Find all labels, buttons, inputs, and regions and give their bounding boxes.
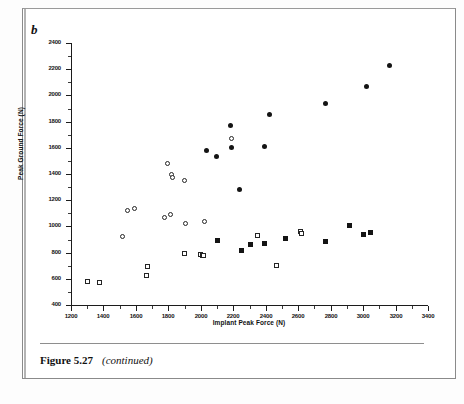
data-point-open-circle xyxy=(229,136,234,141)
data-point-open-square xyxy=(144,273,149,278)
y-minor-tick-mark xyxy=(68,135,71,136)
x-minor-tick-mark xyxy=(87,306,88,309)
y-tick-mark xyxy=(66,174,71,175)
data-point-open-circle xyxy=(183,221,188,226)
x-tick-mark xyxy=(201,306,202,311)
data-point-filled-square xyxy=(361,232,366,237)
y-tick-label: 600 xyxy=(35,275,61,281)
x-minor-tick-mark xyxy=(250,306,251,309)
data-point-open-circle xyxy=(162,215,167,220)
x-tick-mark xyxy=(71,306,72,311)
x-minor-tick-mark xyxy=(217,306,218,309)
data-point-filled-circle xyxy=(237,187,242,192)
y-minor-tick-mark xyxy=(68,213,71,214)
x-axis-label: Implant Peak Force (N) xyxy=(149,319,349,326)
x-minor-tick-mark xyxy=(185,306,186,309)
data-point-open-circle xyxy=(182,178,187,183)
x-minor-tick-mark xyxy=(314,306,315,309)
y-minor-tick-mark xyxy=(68,109,71,110)
x-tick-label: 1600 xyxy=(121,313,151,319)
y-tick-label: 1400 xyxy=(35,170,61,176)
data-point-open-circle xyxy=(170,175,175,180)
x-minor-tick-mark xyxy=(120,306,121,309)
y-tick-label: 2200 xyxy=(35,65,61,71)
x-tick-mark xyxy=(266,306,267,311)
y-tick-mark xyxy=(66,43,71,44)
caption-divider xyxy=(40,343,424,344)
data-point-open-circle xyxy=(202,219,207,224)
data-point-filled-circle xyxy=(323,101,328,106)
data-point-filled-circle xyxy=(204,148,209,153)
data-point-filled-circle xyxy=(267,112,272,117)
y-tick-mark xyxy=(66,279,71,280)
y-tick-label: 1800 xyxy=(35,118,61,124)
x-tick-label: 1400 xyxy=(88,313,118,319)
data-point-open-square xyxy=(201,253,206,258)
data-point-filled-circle xyxy=(387,63,392,68)
y-minor-tick-mark xyxy=(68,82,71,83)
x-minor-tick-mark xyxy=(282,306,283,309)
data-point-filled-square xyxy=(215,238,220,243)
data-point-open-square xyxy=(299,231,304,236)
data-point-filled-circle xyxy=(262,144,267,149)
x-tick-mark xyxy=(428,306,429,311)
x-tick-mark xyxy=(233,306,234,311)
x-tick-mark xyxy=(136,306,137,311)
y-minor-tick-mark xyxy=(68,240,71,241)
y-tick-mark xyxy=(66,148,71,149)
data-point-open-circle xyxy=(125,208,130,213)
y-tick-mark xyxy=(66,122,71,123)
data-point-filled-square xyxy=(262,241,267,246)
x-minor-tick-mark xyxy=(152,306,153,309)
x-tick-mark xyxy=(331,306,332,311)
y-axis-line xyxy=(71,43,72,306)
figure-caption: Figure 5.27(continued) xyxy=(40,354,153,366)
data-point-open-square xyxy=(145,264,150,269)
y-minor-tick-mark xyxy=(68,292,71,293)
x-tick-mark xyxy=(298,306,299,311)
y-tick-label: 2000 xyxy=(35,91,61,97)
data-point-open-square xyxy=(85,279,90,284)
y-minor-tick-mark xyxy=(68,56,71,57)
data-point-open-circle xyxy=(132,206,137,211)
caption-figure-number: Figure 5.27 xyxy=(40,354,93,366)
x-tick-mark xyxy=(363,306,364,311)
y-minor-tick-mark xyxy=(68,266,71,267)
x-minor-tick-mark xyxy=(412,306,413,309)
data-point-filled-circle xyxy=(229,145,234,150)
x-tick-label: 3200 xyxy=(381,313,411,319)
data-point-open-square xyxy=(97,280,102,285)
data-point-open-square xyxy=(274,263,279,268)
x-minor-tick-mark xyxy=(347,306,348,309)
y-axis-label: Peak Ground Force (N) xyxy=(17,84,24,204)
data-point-filled-square xyxy=(323,239,328,244)
y-tick-label: 400 xyxy=(35,301,61,307)
x-tick-mark xyxy=(103,306,104,311)
y-tick-mark xyxy=(66,69,71,70)
y-tick-label: 2400 xyxy=(35,39,61,45)
y-tick-label: 1200 xyxy=(35,196,61,202)
data-point-filled-square xyxy=(368,230,373,235)
y-tick-label: 1600 xyxy=(35,144,61,150)
y-minor-tick-mark xyxy=(68,161,71,162)
y-tick-label: 1000 xyxy=(35,222,61,228)
data-point-filled-circle xyxy=(364,84,369,89)
y-minor-tick-mark xyxy=(68,187,71,188)
y-tick-mark xyxy=(66,226,71,227)
x-minor-tick-mark xyxy=(379,306,380,309)
caption-continued-note: (continued) xyxy=(102,354,153,366)
data-point-open-square xyxy=(182,251,187,256)
data-point-open-square xyxy=(255,233,260,238)
y-tick-mark xyxy=(66,95,71,96)
data-point-filled-square xyxy=(248,242,253,247)
x-tick-label: 3400 xyxy=(413,313,443,319)
data-point-open-circle xyxy=(168,212,173,217)
y-tick-label: 800 xyxy=(35,249,61,255)
data-point-open-circle xyxy=(120,234,125,239)
x-tick-mark xyxy=(396,306,397,311)
data-point-filled-circle xyxy=(228,123,233,128)
y-tick-mark xyxy=(66,200,71,201)
x-tick-mark xyxy=(168,306,169,311)
figure-page: b 40060080010001200140016001800200022002… xyxy=(0,0,464,404)
data-point-open-circle xyxy=(165,161,170,166)
